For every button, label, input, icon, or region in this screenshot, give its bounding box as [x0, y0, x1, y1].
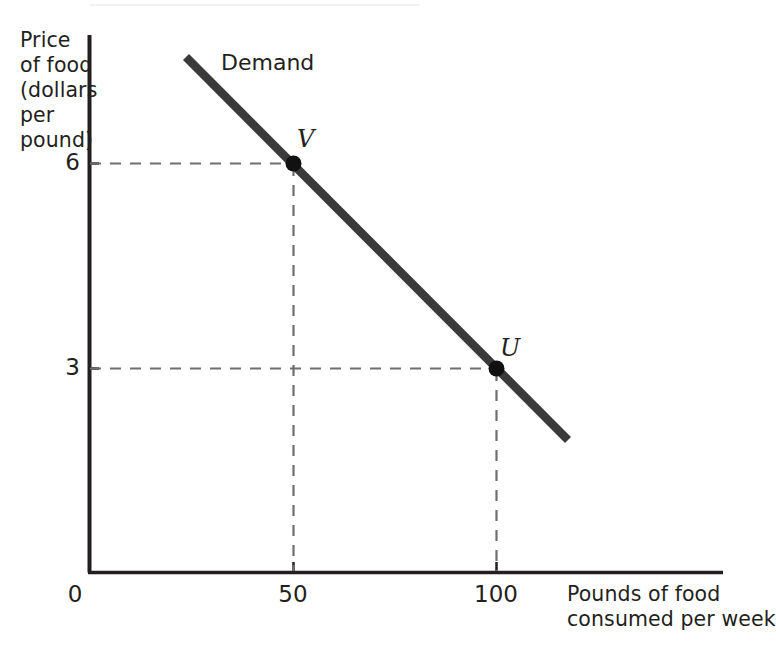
data-point-label-u: U: [500, 336, 520, 360]
demand-curve-line: [186, 57, 568, 440]
y-axis-title: Price of food (dollars per pound): [20, 28, 97, 153]
demand-curve-label: Demand: [221, 52, 314, 74]
scan-artifact-top: [90, 4, 420, 6]
x-axis-title: Pounds of food consumed per week: [567, 582, 776, 632]
x-tick-label-0: 0: [45, 583, 105, 606]
x-tick-label-50: 50: [263, 583, 323, 606]
data-point-u: [489, 361, 505, 377]
y-tick-label-6: 6: [50, 151, 80, 174]
x-tick-label-100: 100: [466, 583, 526, 606]
data-point-label-v: V: [297, 127, 314, 151]
y-tick-label-3: 3: [50, 356, 80, 379]
data-point-v: [286, 156, 302, 172]
